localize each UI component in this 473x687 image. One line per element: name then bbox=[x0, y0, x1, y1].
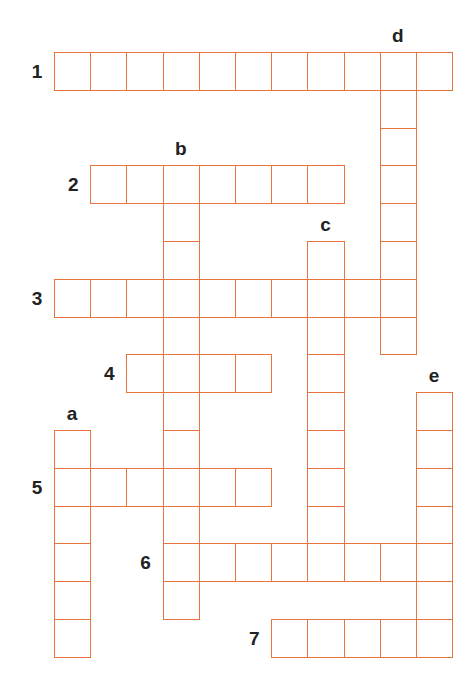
crossword-cell[interactable] bbox=[163, 203, 200, 242]
crossword-cell[interactable] bbox=[126, 52, 163, 91]
crossword-cell[interactable] bbox=[163, 241, 200, 280]
crossword-cell[interactable] bbox=[235, 279, 272, 318]
crossword-cell[interactable] bbox=[307, 392, 344, 431]
crossword-cell[interactable] bbox=[199, 52, 236, 91]
crossword-cell[interactable] bbox=[163, 52, 200, 91]
crossword-cell[interactable] bbox=[271, 279, 308, 318]
crossword-cell[interactable] bbox=[380, 543, 417, 582]
crossword-cell[interactable] bbox=[380, 241, 417, 280]
crossword-cell[interactable] bbox=[416, 506, 453, 545]
crossword-cell[interactable] bbox=[344, 52, 381, 91]
crossword-cell[interactable] bbox=[307, 241, 344, 280]
crossword-board: 1234567abcde bbox=[0, 0, 473, 687]
crossword-cell[interactable] bbox=[54, 543, 91, 582]
crossword-cell[interactable] bbox=[307, 165, 344, 204]
crossword-cell[interactable] bbox=[54, 52, 91, 91]
crossword-cell[interactable] bbox=[235, 165, 272, 204]
clue-letter-d: d bbox=[388, 26, 408, 46]
crossword-cell[interactable] bbox=[163, 354, 200, 393]
clue-number-7: 7 bbox=[244, 629, 264, 649]
clue-number-5: 5 bbox=[27, 478, 47, 498]
crossword-cell[interactable] bbox=[271, 52, 308, 91]
crossword-cell[interactable] bbox=[307, 430, 344, 469]
clue-number-6: 6 bbox=[136, 553, 156, 573]
crossword-cell[interactable] bbox=[163, 581, 200, 620]
crossword-cell[interactable] bbox=[54, 506, 91, 545]
crossword-cell[interactable] bbox=[307, 354, 344, 393]
crossword-cell[interactable] bbox=[416, 581, 453, 620]
crossword-cell[interactable] bbox=[126, 165, 163, 204]
crossword-cell[interactable] bbox=[416, 52, 453, 91]
crossword-cell[interactable] bbox=[90, 468, 127, 507]
crossword-cell[interactable] bbox=[90, 52, 127, 91]
crossword-cell[interactable] bbox=[90, 165, 127, 204]
crossword-cell[interactable] bbox=[380, 165, 417, 204]
crossword-cell[interactable] bbox=[163, 543, 200, 582]
crossword-cell[interactable] bbox=[199, 354, 236, 393]
crossword-cell[interactable] bbox=[344, 543, 381, 582]
crossword-cell[interactable] bbox=[380, 619, 417, 658]
crossword-cell[interactable] bbox=[54, 430, 91, 469]
crossword-cell[interactable] bbox=[307, 506, 344, 545]
clue-letter-a: a bbox=[62, 404, 82, 424]
crossword-cell[interactable] bbox=[235, 52, 272, 91]
crossword-cell[interactable] bbox=[199, 279, 236, 318]
crossword-cell[interactable] bbox=[235, 354, 272, 393]
clue-letter-c: c bbox=[316, 215, 336, 235]
crossword-cell[interactable] bbox=[54, 619, 91, 658]
crossword-cell[interactable] bbox=[307, 279, 344, 318]
crossword-cell[interactable] bbox=[126, 279, 163, 318]
crossword-cell[interactable] bbox=[307, 317, 344, 356]
crossword-cell[interactable] bbox=[307, 543, 344, 582]
clue-number-1: 1 bbox=[27, 62, 47, 82]
crossword-cell[interactable] bbox=[90, 279, 127, 318]
crossword-cell[interactable] bbox=[271, 165, 308, 204]
crossword-cell[interactable] bbox=[380, 128, 417, 167]
crossword-cell[interactable] bbox=[235, 468, 272, 507]
crossword-cell[interactable] bbox=[416, 468, 453, 507]
crossword-cell[interactable] bbox=[416, 543, 453, 582]
crossword-cell[interactable] bbox=[344, 619, 381, 658]
crossword-cell[interactable] bbox=[344, 279, 381, 318]
clue-number-4: 4 bbox=[99, 364, 119, 384]
crossword-cell[interactable] bbox=[235, 543, 272, 582]
crossword-cell[interactable] bbox=[163, 430, 200, 469]
clue-number-3: 3 bbox=[27, 289, 47, 309]
crossword-cell[interactable] bbox=[163, 506, 200, 545]
crossword-cell[interactable] bbox=[163, 468, 200, 507]
crossword-cell[interactable] bbox=[307, 619, 344, 658]
crossword-cell[interactable] bbox=[163, 279, 200, 318]
crossword-cell[interactable] bbox=[126, 354, 163, 393]
crossword-cell[interactable] bbox=[380, 203, 417, 242]
clue-letter-e: e bbox=[424, 366, 444, 386]
crossword-cell[interactable] bbox=[416, 392, 453, 431]
crossword-cell[interactable] bbox=[163, 392, 200, 431]
crossword-cell[interactable] bbox=[54, 279, 91, 318]
crossword-cell[interactable] bbox=[380, 52, 417, 91]
crossword-cell[interactable] bbox=[54, 581, 91, 620]
crossword-cell[interactable] bbox=[416, 430, 453, 469]
crossword-cell[interactable] bbox=[199, 468, 236, 507]
crossword-cell[interactable] bbox=[126, 468, 163, 507]
clue-letter-b: b bbox=[171, 139, 191, 159]
crossword-cell[interactable] bbox=[380, 90, 417, 129]
crossword-cell[interactable] bbox=[199, 543, 236, 582]
crossword-cell[interactable] bbox=[54, 468, 91, 507]
clue-number-2: 2 bbox=[63, 175, 83, 195]
crossword-cell[interactable] bbox=[163, 165, 200, 204]
crossword-cell[interactable] bbox=[271, 619, 308, 658]
crossword-cell[interactable] bbox=[380, 317, 417, 356]
crossword-cell[interactable] bbox=[307, 52, 344, 91]
crossword-cell[interactable] bbox=[416, 619, 453, 658]
crossword-cell[interactable] bbox=[199, 165, 236, 204]
crossword-cell[interactable] bbox=[271, 543, 308, 582]
crossword-cell[interactable] bbox=[307, 468, 344, 507]
crossword-cell[interactable] bbox=[380, 279, 417, 318]
crossword-cell[interactable] bbox=[163, 317, 200, 356]
